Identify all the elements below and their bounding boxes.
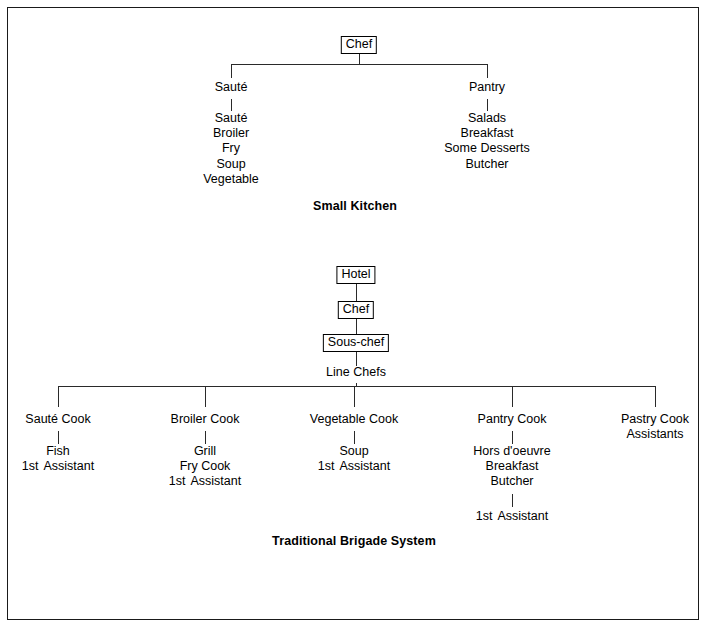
list-pantry-cook-staff: Hors d'oeuvre Breakfast Butcher xyxy=(473,444,550,490)
list-item: Hors d'oeuvre xyxy=(473,444,550,459)
connector-souschef-linechefs xyxy=(356,352,357,366)
node-saute-cook: Sauté Cook xyxy=(25,412,90,427)
node-sous-chef: Sous-chef xyxy=(323,334,389,352)
list-item: Butcher xyxy=(473,474,550,489)
list-item-assistant: 1stAssistant xyxy=(169,474,241,489)
assistant-rank: 1st xyxy=(318,459,335,473)
connector-drop-pantry-cook xyxy=(512,386,513,407)
list-item-assistant: 1stAssistant xyxy=(476,509,548,524)
connector-saute-cook-stem xyxy=(58,431,59,444)
assistant-label: Assistant xyxy=(43,459,94,473)
node-chef: Chef xyxy=(338,301,374,319)
connector-drop-broiler-cook xyxy=(205,386,206,407)
assistant-label: Assistant xyxy=(190,474,241,488)
assistant-label: Assistant xyxy=(339,459,390,473)
connector-drop-saute-cook xyxy=(58,386,59,407)
list-item: Breakfast xyxy=(473,459,550,474)
node-pastry-cook: Pastry Cook xyxy=(621,412,689,427)
list-vegetable-cook-staff: Soup 1stAssistant xyxy=(318,444,390,474)
page-canvas: Chef Sauté Sauté Broiler Fry Soup Vegeta… xyxy=(0,0,706,634)
connector-vegetable-cook-stem xyxy=(354,431,355,444)
connector-chef-souschef xyxy=(356,319,357,335)
assistant-rank: 1st xyxy=(476,509,493,523)
list-saute-cook-staff: Fish 1stAssistant xyxy=(22,444,94,474)
list-item: Fish xyxy=(22,444,94,459)
assistant-label: Assistant xyxy=(497,509,548,523)
connector-hotel-chef xyxy=(356,284,357,301)
brigade-system-chart: Hotel Chef Sous-chef Line Chefs Sauté Co… xyxy=(0,0,706,634)
connector-brigade-bar xyxy=(58,386,655,387)
connector-broiler-cook-stem xyxy=(205,431,206,444)
node-pastry-cook-group: Pastry Cook Assistants xyxy=(621,412,689,442)
list-pantry-cook-assistant: 1stAssistant xyxy=(476,509,548,524)
list-item: Fry Cook xyxy=(169,459,241,474)
list-broiler-cook-staff: Grill Fry Cook 1stAssistant xyxy=(169,444,241,490)
list-item-assistant: 1stAssistant xyxy=(22,459,94,474)
list-item: Grill xyxy=(169,444,241,459)
connector-drop-pastry-cook xyxy=(655,386,656,407)
assistant-rank: 1st xyxy=(22,459,39,473)
assistant-rank: 1st xyxy=(169,474,186,488)
node-vegetable-cook: Vegetable Cook xyxy=(310,412,398,427)
node-hotel: Hotel xyxy=(336,266,375,284)
list-item-assistant: 1stAssistant xyxy=(318,459,390,474)
connector-drop-vegetable-cook xyxy=(354,386,355,407)
connector-pantry-cook-stem xyxy=(512,431,513,444)
caption-brigade-system: Traditional Brigade System xyxy=(272,534,436,548)
list-item: Soup xyxy=(318,444,390,459)
node-line-chefs: Line Chefs xyxy=(326,365,386,380)
node-pantry-cook: Pantry Cook xyxy=(478,412,547,427)
list-item: Assistants xyxy=(621,427,689,442)
connector-pantry-cook-assistant-stem xyxy=(512,494,513,507)
node-broiler-cook: Broiler Cook xyxy=(171,412,240,427)
